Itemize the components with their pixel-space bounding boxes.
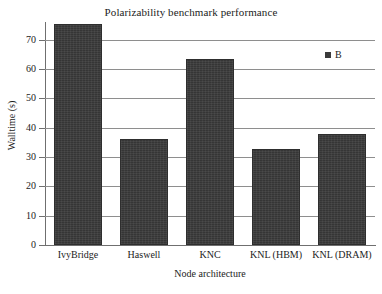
legend-swatch-icon bbox=[325, 52, 331, 58]
x-tick-label: IvyBridge bbox=[45, 249, 111, 260]
x-tick-label: Haswell bbox=[111, 249, 177, 260]
x-axis-title: Node architecture bbox=[45, 268, 375, 279]
y-tick-label: 20 bbox=[6, 181, 36, 191]
x-tick-label: KNL (HBM) bbox=[243, 249, 309, 260]
x-tick-label: KNL (DRAM) bbox=[309, 249, 375, 260]
legend-label: B bbox=[335, 50, 342, 60]
chart-figure: Polarizability benchmark performance Wal… bbox=[0, 0, 382, 294]
y-tick-label: 40 bbox=[6, 123, 36, 133]
y-tick-label: 0 bbox=[6, 240, 36, 250]
y-tick-label: 70 bbox=[6, 35, 36, 45]
chart-legend: B bbox=[325, 50, 342, 60]
chart-title: Polarizability benchmark performance bbox=[0, 6, 382, 18]
x-tick-label: KNC bbox=[177, 249, 243, 260]
bar bbox=[120, 139, 169, 245]
bar bbox=[252, 149, 301, 245]
y-tick-label: 10 bbox=[6, 211, 36, 221]
y-tick-label: 50 bbox=[6, 93, 36, 103]
y-tick-label: 60 bbox=[6, 64, 36, 74]
x-axis-line bbox=[45, 245, 376, 246]
bar bbox=[186, 59, 235, 245]
bar bbox=[318, 134, 367, 246]
bar bbox=[54, 24, 103, 245]
y-tick-label: 30 bbox=[6, 152, 36, 162]
